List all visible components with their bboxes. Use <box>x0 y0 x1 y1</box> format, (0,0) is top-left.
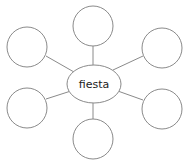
satellite-circle-bottom-left[interactable] <box>7 88 47 128</box>
connector-top-left <box>46 56 74 72</box>
satellite-circle-bottom-right[interactable] <box>142 89 182 129</box>
satellite-circle-top-left[interactable] <box>7 27 47 67</box>
center-label: fiesta <box>79 78 109 91</box>
satellite-circle-bottom[interactable] <box>73 119 113 159</box>
connector-top-right <box>113 56 143 70</box>
satellite-circle-top-right[interactable] <box>142 28 182 68</box>
satellite-circle-top[interactable] <box>73 6 113 46</box>
word-web-diagram: fiesta <box>0 0 189 167</box>
